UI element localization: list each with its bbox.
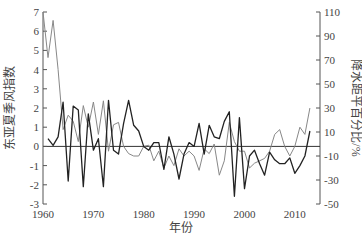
chart-area: 76543210-1-2-31109070503010-10-30-501960… (0, 0, 362, 245)
y-right-tick-label: 50 (324, 78, 336, 90)
y-left-tick-label: -2 (30, 179, 39, 191)
y-right-tick-label: 30 (324, 102, 336, 114)
series-lines (43, 12, 310, 196)
y-right-tick-label: 110 (324, 6, 341, 18)
y-left-tick-label: 5 (34, 44, 40, 56)
y-left-tick-label: 7 (34, 6, 40, 18)
y-right-tick-label: 70 (324, 54, 336, 66)
y-axis-left-label: 东亚夏季风指数 (2, 66, 17, 150)
x-tick-label: 2010 (284, 208, 307, 220)
y-right-tick-label: 90 (324, 30, 336, 42)
y-left-tick-label: 0 (34, 140, 40, 152)
y-right-tick-label: -30 (324, 174, 339, 186)
y-left-tick-label: 4 (34, 64, 40, 76)
y-axis-right-label: 降水距平百分比/% (349, 59, 362, 156)
y-left-tick-label: 6 (34, 25, 40, 37)
tick-labels: 76543210-1-2-31109070503010-10-30-501960… (30, 6, 341, 220)
x-tick-label: 1960 (32, 208, 55, 220)
y-left-tick-label: 2 (34, 102, 40, 114)
x-tick-label: 1970 (82, 208, 105, 220)
x-tick-label: 1990 (183, 208, 206, 220)
y-right-tick-label: 10 (324, 126, 336, 138)
x-axis-label: 年份 (169, 221, 193, 235)
x-tick-label: 1980 (133, 208, 156, 220)
y-left-tick-label: 1 (34, 121, 40, 133)
x-tick-label: 2000 (233, 208, 256, 220)
y-right-tick-label: -50 (324, 198, 339, 210)
y-right-tick-label: -10 (324, 150, 339, 162)
precipitation-anomaly-line (43, 12, 310, 175)
y-left-tick-label: -1 (30, 160, 39, 172)
y-left-tick-label: 3 (34, 83, 40, 95)
